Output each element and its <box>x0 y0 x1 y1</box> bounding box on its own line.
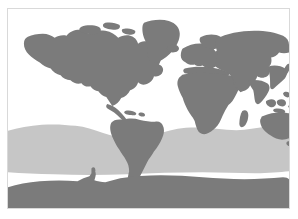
world-map <box>8 9 289 208</box>
figure-root <box>0 0 298 219</box>
land-iceland <box>167 45 179 53</box>
map-frame <box>7 8 290 209</box>
